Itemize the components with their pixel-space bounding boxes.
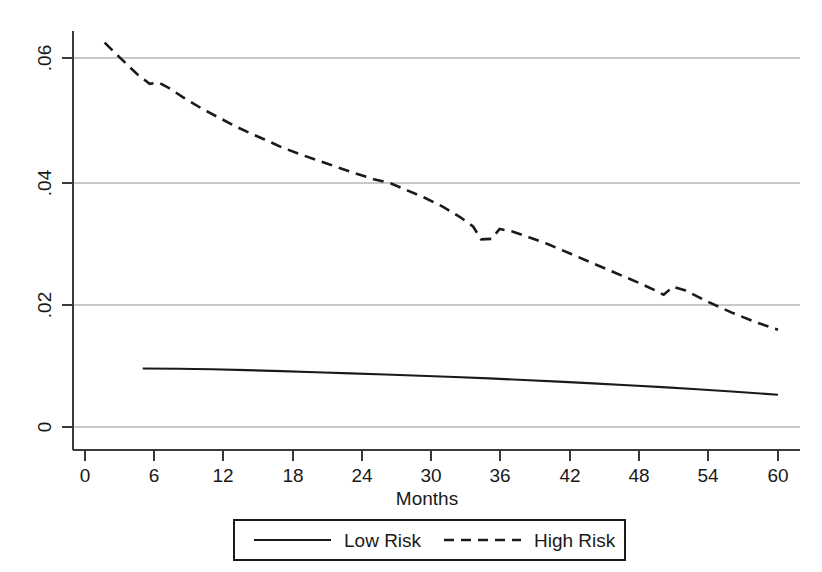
- x-tick-label-48: 48: [628, 465, 649, 486]
- legend-label-high-risk: High Risk: [534, 530, 616, 551]
- y-tick-label-004: .04: [34, 169, 55, 196]
- chart-canvas: .06 .04 .02 0 0 6 12 18 24 30 3: [0, 0, 822, 572]
- hazard-chart-figure: .06 .04 .02 0 0 6 12 18 24 30 3: [0, 0, 822, 572]
- legend-label-low-risk: Low Risk: [344, 530, 422, 551]
- chart-background: [0, 0, 822, 572]
- y-tick-label-006: .06: [34, 45, 55, 71]
- x-tick-label-18: 18: [282, 465, 303, 486]
- chart-legend: Low Risk High Risk: [234, 520, 625, 560]
- x-tick-label-24: 24: [351, 465, 373, 486]
- x-tick-label-54: 54: [697, 465, 719, 486]
- x-tick-label-0: 0: [80, 465, 91, 486]
- x-tick-label-60: 60: [767, 465, 788, 486]
- x-tick-label-42: 42: [559, 465, 580, 486]
- x-tick-label-12: 12: [212, 465, 233, 486]
- x-tick-label-36: 36: [489, 465, 510, 486]
- x-tick-label-30: 30: [420, 465, 441, 486]
- x-tick-label-6: 6: [149, 465, 160, 486]
- y-tick-label-002: .02: [34, 292, 55, 318]
- x-axis-title: Months: [396, 488, 458, 509]
- y-tick-label-000: 0: [34, 422, 55, 433]
